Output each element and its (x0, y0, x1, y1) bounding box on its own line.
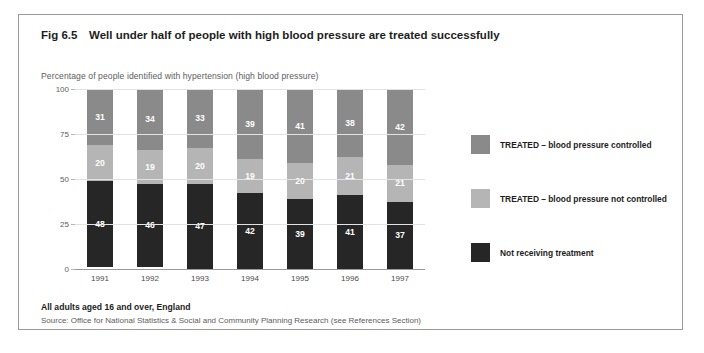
y-tick-mark (71, 179, 75, 180)
bar-value-label: 20 (295, 177, 305, 186)
bar-value-label: 46 (145, 221, 155, 230)
bar-segment[interactable]: 33 (187, 89, 213, 148)
y-tick-mark (71, 224, 75, 225)
bar-segment[interactable]: 19 (237, 159, 263, 193)
x-tick-label: 1996 (330, 274, 370, 283)
chart-plot-area: 3120483419463320473919424120393821414221… (75, 89, 425, 269)
gridline (75, 134, 425, 135)
bar-segment[interactable]: 46 (137, 184, 163, 267)
y-tick-label: 50 (43, 175, 69, 184)
bar-segment[interactable]: 21 (337, 157, 363, 195)
chart-axis-caption: Percentage of people identified with hyp… (41, 71, 318, 81)
bar-segment[interactable]: 41 (337, 195, 363, 269)
y-axis: 0255075100 (43, 89, 69, 269)
legend-item[interactable]: Not receiving treatment (471, 243, 594, 262)
figure-number: Fig 6.5 (41, 27, 89, 43)
figure-heading: Fig 6.5 Well under half of people with h… (41, 27, 511, 43)
y-tick-mark (71, 269, 75, 270)
bar-segment[interactable]: 42 (237, 193, 263, 269)
bar-segment[interactable]: 42 (387, 89, 413, 165)
bar-segment[interactable]: 37 (387, 202, 413, 269)
bar-value-label: 39 (245, 120, 255, 129)
gridline (75, 224, 425, 225)
bar-value-label: 33 (195, 114, 205, 123)
x-tick-label: 1994 (230, 274, 270, 283)
bar-value-label: 42 (395, 123, 405, 132)
x-tick-label: 1991 (80, 274, 120, 283)
x-tick-label: 1992 (130, 274, 170, 283)
gridline (75, 89, 425, 90)
legend-label: TREATED – blood pressure controlled (500, 140, 652, 150)
legend-item[interactable]: TREATED – blood pressure not controlled (471, 189, 667, 208)
bar-value-label: 34 (145, 115, 155, 124)
bar-value-label: 38 (345, 119, 355, 128)
y-tick-label: 25 (43, 220, 69, 229)
bar-value-label: 20 (195, 162, 205, 171)
bar-segment[interactable]: 39 (287, 199, 313, 269)
x-tick-label: 1993 (180, 274, 220, 283)
y-tick-label: 0 (43, 265, 69, 274)
bar-segment[interactable]: 38 (337, 89, 363, 157)
y-tick-mark (71, 89, 75, 90)
bar-segment[interactable]: 41 (287, 89, 313, 163)
bar-segment[interactable]: 39 (237, 89, 263, 159)
gridline (75, 179, 425, 180)
page-title: Well under half of people with high bloo… (89, 27, 500, 43)
bar-segment[interactable]: 20 (87, 145, 113, 181)
bar-value-label: 20 (95, 159, 105, 168)
legend-label: Not receiving treatment (500, 248, 594, 258)
bar-segment[interactable]: 34 (137, 89, 163, 150)
y-tick-label: 75 (43, 130, 69, 139)
bar-segment[interactable]: 21 (387, 165, 413, 203)
legend-swatch-icon (471, 243, 490, 262)
bar-value-label: 39 (295, 230, 305, 239)
x-tick-label: 1997 (380, 274, 420, 283)
figure-panel: Fig 6.5 Well under half of people with h… (18, 14, 683, 330)
bar-segment[interactable]: 47 (187, 184, 213, 269)
legend-label: TREATED – blood pressure not controlled (500, 194, 667, 204)
legend-swatch-icon (471, 135, 490, 154)
bar-value-label: 31 (95, 113, 105, 122)
bar-segment[interactable]: 31 (87, 89, 113, 145)
legend-item[interactable]: TREATED – blood pressure controlled (471, 135, 652, 154)
bar-value-label: 19 (145, 163, 155, 172)
x-tick-label: 1995 (280, 274, 320, 283)
bar-value-label: 41 (345, 228, 355, 237)
figure-footer: All adults aged 16 and over, England Sou… (41, 302, 421, 325)
y-tick-mark (71, 134, 75, 135)
bar-value-label: 41 (295, 122, 305, 131)
x-axis-line (75, 269, 425, 270)
bar-value-label: 21 (395, 179, 405, 188)
footer-source-note: Source: Office for National Statistics &… (41, 316, 421, 325)
y-tick-label: 100 (43, 85, 69, 94)
bar-value-label: 37 (395, 231, 405, 240)
bar-segment[interactable]: 20 (287, 163, 313, 199)
bar-value-label: 42 (245, 227, 255, 236)
legend-swatch-icon (471, 189, 490, 208)
footer-population-note: All adults aged 16 and over, England (41, 302, 421, 312)
